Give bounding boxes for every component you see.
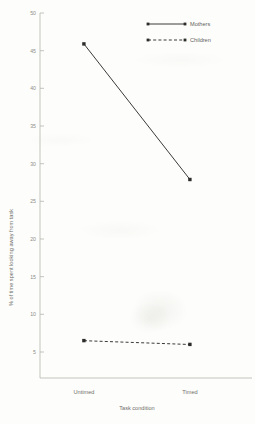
legend-marker-mothers-start: [147, 23, 150, 26]
series-children-point-timed: [188, 343, 191, 346]
series-mothers: [82, 42, 191, 181]
legend-item-children: Children: [147, 37, 211, 43]
legend-marker-children-end: [184, 39, 187, 42]
y-tick-label-25: 25: [30, 198, 36, 204]
chart-legend: Mothers Children: [147, 21, 211, 43]
y-tick-label-20: 20: [30, 236, 36, 242]
chart-figure: 50 45 40 35 30 25 20 15 10 5 % of time s…: [0, 0, 255, 424]
legend-marker-mothers-end: [184, 23, 187, 26]
y-tick-label-40: 40: [30, 85, 36, 91]
y-tick-label-10: 10: [30, 311, 36, 317]
y-tick-marks: [40, 13, 44, 352]
series-mothers-point-timed: [188, 178, 191, 181]
series-mothers-line: [84, 44, 190, 180]
legend-label-children: Children: [190, 37, 211, 43]
y-tick-label-45: 45: [30, 48, 36, 54]
y-tick-label-50: 50: [30, 10, 36, 16]
series-children-point-untimed: [82, 339, 85, 342]
x-axis-title: Task condition: [119, 405, 154, 411]
y-tick-label-30: 30: [30, 161, 36, 167]
series-mothers-point-untimed: [82, 42, 85, 45]
y-tick-label-35: 35: [30, 123, 36, 129]
x-tick-labels: Untimed Timed: [74, 389, 198, 395]
series-children-line: [84, 341, 190, 345]
x-label-timed: Timed: [182, 389, 197, 395]
series-children: [82, 339, 191, 346]
axis-group: [40, 13, 252, 378]
legend-label-mothers: Mothers: [190, 21, 210, 27]
y-axis-title: % of time spent looking away from task: [8, 209, 14, 306]
line-chart-plot: 50 45 40 35 30 25 20 15 10 5 % of time s…: [0, 0, 255, 424]
legend-item-mothers: Mothers: [147, 21, 211, 27]
y-tick-label-5: 5: [33, 349, 36, 355]
x-label-untimed: Untimed: [74, 389, 95, 395]
y-tick-label-15: 15: [30, 274, 36, 280]
y-tick-labels: 50 45 40 35 30 25 20 15 10 5: [30, 10, 36, 355]
legend-marker-children-start: [147, 39, 150, 42]
